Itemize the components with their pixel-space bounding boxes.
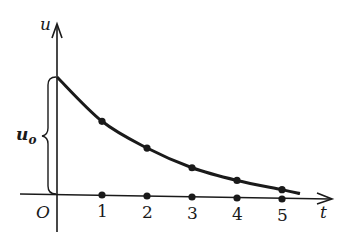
t-axis-point (233, 194, 240, 201)
curve-point (233, 177, 240, 184)
t-tick-labels: 12345 (97, 201, 288, 225)
t-axis-point (278, 195, 285, 202)
t-axis-point (98, 191, 105, 198)
origin-label: O (36, 202, 50, 222)
t-tick-label: 4 (232, 204, 243, 224)
curve-point (98, 118, 105, 125)
t-tick-label: 5 (277, 205, 288, 225)
t-axis-label: t (320, 202, 327, 222)
u0-brace (42, 77, 56, 194)
t-axis-point (143, 192, 150, 199)
u0-label: uo (16, 124, 36, 147)
curve-point (278, 186, 285, 193)
t-axis-points (98, 191, 285, 202)
t-tick-label: 2 (142, 202, 153, 222)
t-tick-label: 3 (187, 203, 198, 223)
t-tick-label: 1 (97, 201, 108, 221)
curve-points (98, 118, 285, 194)
curve-point (143, 144, 150, 151)
t-axis-point (188, 193, 195, 200)
decay-diagram: 12345 u t O uo (0, 0, 351, 242)
decay-curve (57, 77, 300, 194)
u-axis-label: u (40, 14, 51, 34)
curve-point (188, 164, 195, 171)
